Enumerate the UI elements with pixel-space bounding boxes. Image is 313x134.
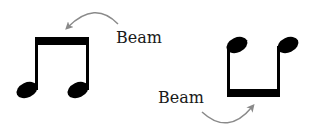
top-beam	[35, 37, 89, 45]
notation-canvas	[0, 0, 313, 134]
arrow-to-top-beam-icon	[68, 13, 118, 27]
bottom-beam	[227, 89, 280, 97]
beam-label-bottom: Beam	[158, 90, 204, 106]
left-stem-up	[35, 37, 38, 90]
stems-down-note-pair	[224, 34, 301, 97]
beam-diagram: Beam Beam	[0, 0, 313, 134]
beam-label-top: Beam	[116, 30, 162, 46]
stems-up-note-pair	[14, 37, 91, 101]
right-stem-up	[86, 37, 89, 90]
arrow-to-bottom-beam-icon	[202, 107, 252, 123]
